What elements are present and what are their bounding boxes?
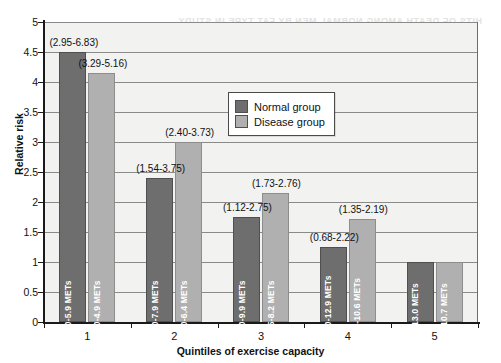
y-axis-tick-label: 4 (4, 76, 38, 88)
bar-disease-group-q5: ≥10.7 METs (436, 262, 463, 322)
gridline (44, 52, 477, 53)
x-axis-tick (304, 322, 305, 328)
bar-mets-label: 8.0-9.9 METs (237, 280, 247, 333)
y-axis-tick-label: 1 (4, 256, 38, 268)
legend-item-disease-group: Disease group (235, 115, 325, 128)
bar-mets-label: 5.0-6.4 METs (179, 280, 189, 333)
y-axis-tick-label: 0 (4, 316, 38, 328)
x-axis-tick-label: 5 (432, 330, 438, 342)
bar-mets-label: 1.0-4.9 METs (92, 280, 102, 333)
legend-swatch-normal-icon (235, 100, 248, 113)
x-axis-tick (478, 322, 479, 328)
y-axis-tick-label: 5 (4, 16, 38, 28)
legend: Normal group Disease group (228, 92, 335, 136)
ci-label: (0.68-2.22) (310, 232, 359, 243)
x-axis-tick-label: 1 (84, 330, 90, 342)
x-axis-tick (131, 322, 132, 328)
x-axis-tick (44, 322, 45, 328)
x-axis-tick (391, 322, 392, 328)
bar-normal-group-q5: ≥13.0 METs (407, 262, 434, 322)
gridline (44, 22, 477, 23)
x-axis-title: Quintiles of exercise capacity (0, 345, 501, 357)
relative-risk-bar-chart: HITS OF DEATH AMONG NORMAL MEN BY FAT TY… (0, 0, 501, 363)
ci-label: (3.29-5.16) (78, 58, 127, 69)
bar-mets-label: 6.5-8.2 METs (266, 280, 276, 333)
x-axis-tick-label: 3 (258, 330, 264, 342)
legend-label-normal-group: Normal group (254, 101, 321, 113)
x-axis-tick (218, 322, 219, 328)
bar-normal-group-q4: 10.0-12.9 METs (320, 247, 347, 322)
y-axis-tick-label: 4.5 (4, 46, 38, 58)
legend-swatch-disease-icon (235, 115, 248, 128)
bar-normal-group-q2: 6.0-7.9 METs (146, 178, 173, 322)
bar-mets-label: 1.0-5.9 METs (63, 280, 73, 333)
ci-label: (1.12-2.75) (223, 202, 272, 213)
ci-label: (1.54-3.75) (136, 163, 185, 174)
y-axis-title: Relative risk (13, 94, 25, 194)
y-axis-line (43, 20, 45, 324)
bar-mets-label: 6.0-7.9 METs (150, 280, 160, 333)
ci-label: (2.40-3.73) (165, 127, 214, 138)
ci-label: (1.35-2.19) (339, 204, 388, 215)
bar-mets-label: 10.0-12.9 METs (323, 275, 333, 338)
bar-normal-group-q1: 1.0-5.9 METs (59, 52, 86, 322)
ci-label: (1.73-2.76) (252, 178, 301, 189)
y-axis-tick-label: 2 (4, 196, 38, 208)
x-axis-tick-label: 4 (345, 330, 351, 342)
bar-disease-group-q1: 1.0-4.9 METs (88, 73, 115, 322)
y-axis-tick-label: 0.5 (4, 286, 38, 298)
bar-mets-label: ≥10.7 METs (439, 283, 449, 331)
x-axis-tick-label: 2 (171, 330, 177, 342)
legend-label-disease-group: Disease group (254, 116, 325, 128)
bar-normal-group-q3: 8.0-9.9 METs (233, 217, 260, 322)
ci-label: (2.95-6.83) (49, 37, 98, 48)
legend-item-normal-group: Normal group (235, 100, 325, 113)
bar-mets-label: 8.3-10.6 METs (352, 278, 362, 336)
bar-mets-label: ≥13.0 METs (410, 283, 420, 331)
y-axis-tick-label: 1.5 (4, 226, 38, 238)
